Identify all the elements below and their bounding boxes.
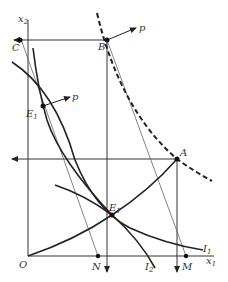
label-m: M <box>181 261 193 272</box>
x-axis-label: x1 <box>206 255 216 268</box>
point-a <box>175 157 180 162</box>
label-a: A <box>179 147 187 158</box>
y-axis-label: x2 <box>18 13 29 26</box>
curve-segment <box>55 185 112 215</box>
label-p-top: p <box>139 22 146 33</box>
label-b: B <box>97 41 105 52</box>
point-m <box>184 254 188 258</box>
label-i1: I1 <box>202 243 211 256</box>
diagram: x2 x1 O C B A N M E1 E1 p p I1 I2 <box>0 0 228 282</box>
indifference-curve-i2 <box>33 48 155 268</box>
point-e1-upper <box>41 104 46 109</box>
economics-diagram: x2 x1 O C B A N M E1 E1 p p I1 I2 <box>0 0 228 282</box>
price-vector-top <box>107 28 136 40</box>
label-e1-upper: E1 <box>25 108 38 121</box>
point-n <box>96 254 100 258</box>
label-n: N <box>91 261 102 272</box>
label-c: C <box>12 42 20 53</box>
point-e1-lower <box>110 213 115 218</box>
label-p-mid: p <box>72 91 79 102</box>
dashed-frontier-curve <box>97 13 212 181</box>
budget-line-b-m <box>107 40 186 256</box>
origin-label: O <box>19 259 27 270</box>
